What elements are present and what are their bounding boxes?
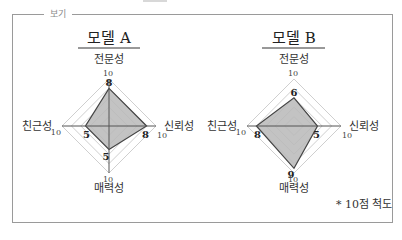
axis-label: 친근성 bbox=[22, 120, 52, 133]
value-label: 5 bbox=[83, 129, 90, 140]
axis-label: 친근성 bbox=[207, 120, 237, 133]
radar-chart-a: 모델 A전문성신뢰성매력성친근성101010108855 bbox=[22, 29, 194, 195]
max-tick: 10 bbox=[236, 128, 246, 137]
data-area bbox=[256, 98, 317, 169]
value-label: 8 bbox=[254, 129, 261, 140]
value-label: 5 bbox=[313, 129, 320, 140]
max-tick: 10 bbox=[103, 175, 113, 184]
axis-label: 전문성 bbox=[94, 53, 124, 66]
value-label: 8 bbox=[142, 129, 149, 140]
chart-title: 모델 B bbox=[272, 29, 316, 47]
axis-label: 신뢰성 bbox=[349, 120, 379, 133]
radar-chart-b: 모델 B전문성신뢰성매력성친근성101010106598 bbox=[207, 29, 379, 195]
max-tick: 10 bbox=[288, 69, 298, 78]
chart-title: 모델 A bbox=[87, 29, 131, 47]
value-label: 6 bbox=[291, 87, 298, 98]
value-label: 9 bbox=[288, 169, 295, 180]
value-label: 5 bbox=[103, 151, 110, 162]
max-tick: 10 bbox=[51, 128, 61, 137]
max-tick: 10 bbox=[157, 131, 167, 140]
axis-label: 신뢰성 bbox=[164, 120, 194, 133]
max-tick: 10 bbox=[342, 131, 352, 140]
value-label: 8 bbox=[106, 77, 113, 88]
scale-note: * 10점 척도 bbox=[336, 195, 393, 211]
axis-label: 전문성 bbox=[279, 53, 309, 66]
